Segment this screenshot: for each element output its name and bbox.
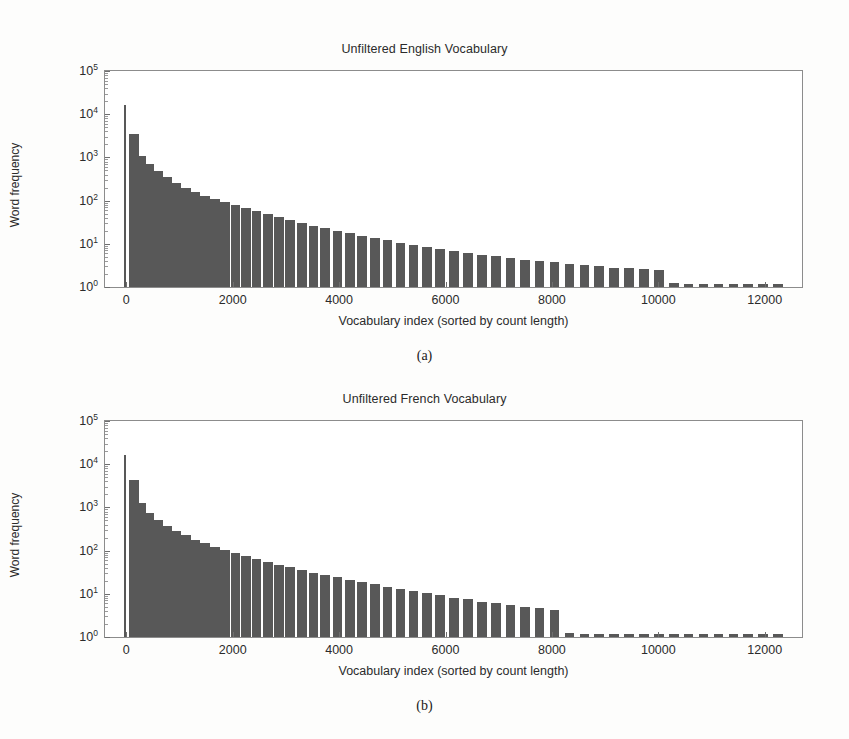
y-minor-tick [105,250,108,251]
y-tick-label: 104 [79,108,98,121]
subcaption-a: (a) [0,348,849,364]
y-minor-tick [105,167,108,168]
x-tick-mark [446,632,447,637]
y-minor-tick [105,137,108,138]
x-tick-label: 4000 [325,643,353,657]
bar [520,607,530,637]
y-minor-tick [105,598,108,599]
y-tick-label: 100 [79,281,98,294]
bar [210,199,220,287]
y-minor-tick [105,121,108,122]
y-minor-tick [105,116,108,117]
bar [309,573,319,637]
subcaption-b: (b) [0,698,849,714]
bar [580,634,590,637]
y-minor-tick [105,607,108,608]
bar [435,595,445,637]
bar [191,540,201,637]
x-tick-mark [658,632,659,637]
y-axis-label-a: Word frequency [8,125,22,245]
bar [285,220,295,287]
y-minor-tick [105,214,108,215]
x-tick-mark [126,282,127,287]
y-tick-mark [105,594,110,595]
x-tick-mark [446,282,447,287]
bar [743,634,753,637]
y-minor-tick [105,603,108,604]
bar [714,634,724,637]
y-tick-label: 103 [79,501,98,514]
bar [241,556,251,637]
bar [609,634,619,637]
bar [639,269,649,287]
bar [491,256,501,287]
bar [200,196,210,287]
y-minor-tick [105,188,108,189]
x-tick-mark [765,632,766,637]
bar [309,226,319,287]
bar [383,587,393,637]
y-minor-tick [105,73,108,74]
y-minor-tick [105,573,108,574]
bar [252,211,262,287]
y-tick-label: 101 [79,588,98,601]
y-minor-tick [105,560,108,561]
bar [320,575,330,637]
y-minor-tick [105,494,108,495]
y-minor-tick [105,525,108,526]
bar [594,634,604,637]
y-tick-mark [105,71,110,72]
bar [285,567,295,637]
bar [422,247,432,287]
bar [345,233,355,287]
x-tick-mark [339,282,340,287]
bar [396,243,406,287]
bar [333,231,343,287]
figure-page: Unfiltered English Vocabulary 1001011021… [0,0,849,739]
x-tick-label: 4000 [325,293,353,307]
y-tick-label: 105 [79,65,98,78]
y-tick-mark [105,114,110,115]
x-tick-label: 6000 [432,293,460,307]
y-minor-tick [105,170,108,171]
bar [639,634,649,637]
y-minor-tick [105,84,108,85]
bar [124,455,127,637]
bar [191,192,201,287]
y-minor-tick [105,428,108,429]
x-tick-label: 12000 [747,643,782,657]
y-tick-label: 105 [79,415,98,428]
bar [743,284,753,287]
y-minor-tick [105,231,108,232]
bar [729,634,739,637]
bar [383,240,393,287]
bar [758,284,768,287]
y-minor-tick [105,512,108,513]
y-minor-tick [105,180,108,181]
y-minor-tick [105,557,108,558]
chart-title-b: Unfiltered French Vocabulary [0,392,849,406]
y-minor-tick [105,553,108,554]
y-tick-label: 102 [79,544,98,557]
bar [422,593,432,637]
x-tick-label: 12000 [747,293,782,307]
figure-panel-a: Unfiltered English Vocabulary 1001011021… [0,30,849,380]
bar [357,582,367,637]
x-tick-label: 0 [123,643,130,657]
x-tick-mark [552,282,553,287]
y-minor-tick [105,468,108,469]
bar [580,265,590,287]
bar [699,284,709,287]
bar [370,238,380,287]
y-tick-mark [105,421,110,422]
x-tick-label: 10000 [641,293,676,307]
y-minor-tick [105,253,108,254]
y-minor-tick [105,434,108,435]
bar [409,245,419,287]
y-minor-tick [105,600,108,601]
bar [409,591,419,637]
y-minor-tick [105,530,108,531]
bar [181,188,191,287]
bar [241,208,251,287]
y-tick-mark [105,201,110,202]
